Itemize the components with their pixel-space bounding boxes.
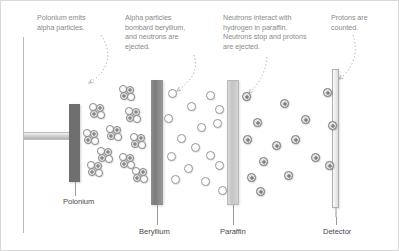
polonium-support-rod [23,132,71,140]
proton-icon [325,161,334,170]
leader-beryllium [177,55,195,91]
neutron-icon [177,134,186,143]
annotation-paraffin: Neutrons interact with hydrogen in paraf… [223,13,323,51]
alpha-particle [106,125,121,140]
caption-lead-detector [336,217,337,225]
proton-icon [284,171,293,180]
alpha-particle [125,107,140,122]
alpha-particle [83,129,98,144]
proton-icon [242,92,251,101]
alpha-neutron-icon [133,115,141,123]
neutron-icon [218,186,227,195]
proton-icon [253,118,262,127]
polonium-source-block [69,104,80,182]
alpha-neutron-icon [127,93,135,101]
neutron-icon [168,89,177,98]
caption-lead-polonium [75,182,76,196]
neutron-icon [215,105,224,114]
neutron-icon [184,164,193,173]
proton-icon [272,141,281,150]
detector-block [332,69,339,208]
proton-icon [259,157,268,166]
caption-beryllium: Beryllium [139,227,170,236]
proton-icon [328,121,337,130]
neutron-icon [187,102,196,111]
proton-icon [243,135,252,144]
paraffin-block [227,80,239,205]
alpha-neutron-icon [105,155,113,163]
neutron-icon [215,161,224,170]
neutron-icon [206,91,215,100]
neutron-icon [213,119,222,128]
proton-icon [247,173,256,182]
proton-icon [301,115,310,124]
alpha-particle [130,133,145,148]
alpha-particle [119,153,134,168]
neutron-icon [201,177,210,186]
neutron-icon [167,152,176,161]
neutron-icon [171,175,180,184]
annotation-beryllium: Alpha particles bombard beryllium, and n… [125,13,201,51]
leader-paraffin [249,57,267,93]
alpha-particle [87,161,102,176]
neutron-icon [191,143,200,152]
annotation-polonium: Polonium emits alpha particles. [37,13,109,32]
neutron-icon [197,123,206,132]
detector-stem [335,208,337,217]
alpha-neutron-icon [114,133,122,141]
proton-icon [323,88,332,97]
leader-polonium [89,35,108,83]
annotation-detector: Protons are counted. [331,13,393,32]
beryllium-target-block [151,80,163,205]
diagram-canvas: Polonium emits alpha particles. Alpha pa… [0,0,399,251]
caption-paraffin: Paraffin [220,227,246,236]
alpha-neutron-icon [138,141,146,149]
alpha-particle [119,85,134,100]
proton-icon [256,187,265,196]
caption-lead-beryllium [157,205,158,225]
alpha-neutron-icon [97,111,105,119]
neutron-icon [164,114,173,123]
caption-detector: Detector [323,227,351,236]
alpha-neutron-icon [140,175,148,183]
alpha-neutron-icon [95,169,103,177]
leader-detector [339,35,355,79]
alpha-particle [97,147,112,162]
neutron-icon [206,151,215,160]
alpha-particle [132,167,147,182]
proton-icon [311,153,320,162]
alpha-particle [89,103,104,118]
caption-lead-paraffin [233,205,234,225]
caption-polonium: Polonium [63,197,94,206]
proton-icon [280,99,289,108]
alpha-neutron-icon [91,137,99,145]
proton-icon [291,135,300,144]
